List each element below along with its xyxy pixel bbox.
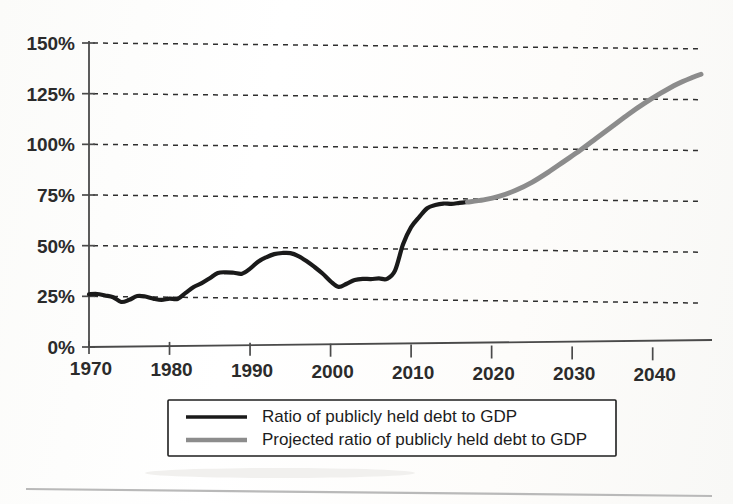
y-axis-tick-labels: 0%25%50%75%100%125%150% (26, 33, 75, 358)
x-tick-label-2020: 2020 (472, 363, 514, 384)
gridline-75% (93, 195, 701, 201)
y-tick-label-150%: 150% (26, 33, 75, 54)
chart-legend: Ratio of publicly held debt to GDP Proje… (168, 400, 616, 456)
plot-area (89, 74, 701, 302)
y-axis: 0%25%50%75%100%125%150% (26, 33, 95, 358)
x-axis-line (89, 340, 712, 347)
x-axis-tick-labels: 19701980199020002010202020302040 (70, 358, 676, 385)
series-line-projected (467, 74, 701, 202)
chart-page: 0%25%50%75%100%125%150% 1970198019902000… (0, 0, 733, 504)
series-line-actual (89, 202, 467, 302)
gridline-50% (93, 246, 701, 253)
y-tick-label-75%: 75% (37, 185, 75, 206)
y-tick-label-125%: 125% (26, 84, 75, 105)
footer-rule (26, 489, 712, 496)
x-tick-label-2030: 2030 (553, 363, 595, 384)
x-tick-label-2040: 2040 (634, 364, 676, 385)
x-axis: 19701980199020002010202020302040 (70, 340, 712, 385)
gridline-100% (93, 144, 701, 150)
x-tick-label-2000: 2000 (311, 361, 353, 382)
y-tick-label-25%: 25% (37, 286, 75, 307)
x-tick-label-1990: 1990 (231, 360, 273, 381)
legend-label-actual: Ratio of publicly held debt to GDP (262, 407, 517, 426)
x-tick-label-1970: 1970 (70, 358, 112, 379)
gridline-25% (93, 296, 701, 303)
x-tick-label-1980: 1980 (150, 359, 192, 380)
legend-label-projected: Projected ratio of publicly held debt to… (262, 430, 587, 449)
debt-to-gdp-line-chart: 0%25%50%75%100%125%150% 1970198019902000… (0, 0, 733, 504)
y-tick-label-50%: 50% (37, 236, 75, 257)
gridline-125% (93, 94, 701, 100)
y-tick-label-100%: 100% (26, 134, 75, 155)
y-tick-label-0%: 0% (48, 337, 76, 358)
gridline-150% (93, 43, 701, 49)
x-tick-label-2010: 2010 (392, 362, 434, 383)
scan-smudge (145, 468, 415, 478)
